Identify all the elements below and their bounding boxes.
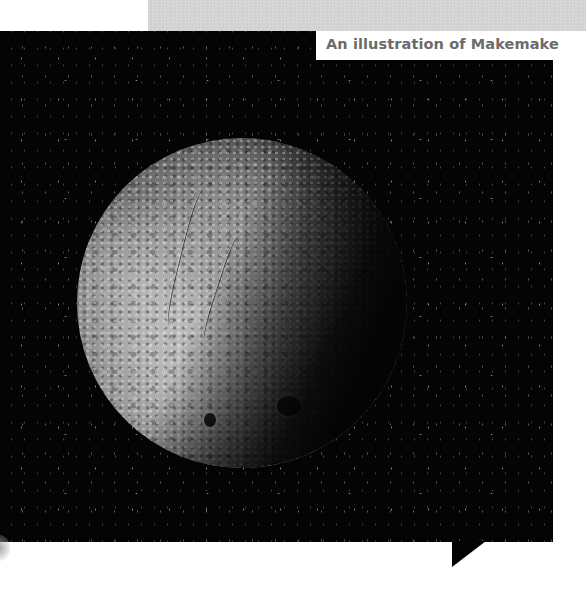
decorative-gray-band: [148, 0, 586, 31]
caption-text: An illustration of Makemake: [326, 36, 559, 52]
planet-shadow: [77, 138, 407, 468]
speech-bubble-tail: [452, 541, 486, 567]
caption-box: An illustration of Makemake: [316, 31, 586, 60]
makemake-illustration-image: [0, 31, 553, 542]
planet-makemake: [77, 138, 407, 468]
